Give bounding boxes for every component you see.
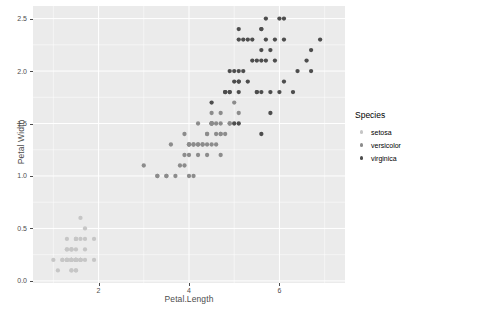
data-point	[255, 58, 259, 62]
series-virginica	[209, 16, 322, 136]
data-point	[219, 132, 223, 136]
y-tick-label: 0.5	[3, 225, 27, 232]
data-point	[282, 16, 286, 20]
data-point	[241, 69, 245, 73]
data-point	[209, 100, 213, 104]
data-point	[187, 174, 191, 178]
data-point	[191, 142, 195, 146]
data-point	[232, 121, 236, 125]
data-point	[155, 174, 159, 178]
data-point	[250, 37, 254, 41]
data-point	[273, 37, 277, 41]
data-point	[268, 48, 272, 52]
data-point	[318, 37, 322, 41]
data-point	[237, 121, 241, 125]
data-point	[65, 247, 69, 251]
data-point	[214, 132, 218, 136]
data-point	[295, 69, 299, 73]
data-point	[60, 258, 64, 262]
data-point	[259, 90, 263, 94]
scatter-plot-figure: 0.00.51.01.52.02.5 246 Petal.Length Peta…	[0, 0, 478, 311]
data-point	[205, 132, 209, 136]
data-point	[246, 37, 250, 41]
data-point	[78, 237, 82, 241]
data-point	[268, 111, 272, 115]
data-point	[74, 258, 78, 262]
data-point	[219, 121, 223, 125]
y-axis-title: Petal Width	[16, 92, 26, 192]
x-tick-label: 4	[179, 287, 199, 294]
legend-key-swatch	[355, 152, 368, 165]
data-point	[69, 268, 73, 272]
data-point	[69, 247, 73, 251]
data-point	[241, 37, 245, 41]
data-point	[232, 100, 236, 104]
data-point	[237, 90, 241, 94]
data-point	[209, 142, 213, 146]
legend-item-label: virginica	[371, 155, 397, 162]
plot-panel	[33, 6, 345, 283]
y-tick-mark	[30, 124, 33, 125]
data-point	[309, 48, 313, 52]
x-tick-label: 6	[269, 287, 289, 294]
data-point	[223, 132, 227, 136]
x-tick-mark	[279, 283, 280, 286]
legend-item-setosa[interactable]: setosa	[355, 126, 473, 139]
data-point	[205, 153, 209, 157]
data-point	[56, 268, 60, 272]
data-point	[187, 142, 191, 146]
data-point	[74, 268, 78, 272]
data-point	[277, 16, 281, 20]
data-point	[196, 153, 200, 157]
data-point	[268, 90, 272, 94]
data-point	[232, 69, 236, 73]
legend-key-swatch	[355, 139, 368, 152]
data-point	[214, 142, 218, 146]
data-point	[83, 258, 87, 262]
data-point	[182, 163, 186, 167]
x-axis-title: Petal.Length	[33, 294, 345, 304]
y-tick-label: 2.5	[3, 15, 27, 22]
data-point	[191, 174, 195, 178]
y-tick-mark	[30, 71, 33, 72]
legend-dot-icon	[360, 156, 363, 159]
data-point	[205, 142, 209, 146]
data-point	[164, 174, 168, 178]
legend-items: setosaversicolorvirginica	[355, 126, 473, 165]
data-point	[232, 79, 236, 83]
data-point	[182, 153, 186, 157]
data-point	[237, 37, 241, 41]
x-tick-label: 2	[89, 287, 109, 294]
data-point	[51, 258, 55, 262]
legend-item-versicolor[interactable]: versicolor	[355, 139, 473, 152]
data-point	[92, 258, 96, 262]
legend-title: Species	[355, 111, 473, 120]
data-point	[92, 237, 96, 241]
data-point	[277, 90, 281, 94]
data-point	[69, 258, 73, 262]
data-point	[65, 258, 69, 262]
legend-item-virginica[interactable]: virginica	[355, 152, 473, 165]
y-tick-mark	[30, 228, 33, 229]
x-tick-mark	[189, 283, 190, 286]
data-point	[65, 237, 69, 241]
data-point	[246, 79, 250, 83]
data-point	[78, 258, 82, 262]
legend-dot-icon	[360, 130, 363, 133]
series-versicolor	[142, 90, 241, 178]
data-point	[209, 111, 213, 115]
data-point	[282, 79, 286, 83]
data-point	[264, 58, 268, 62]
data-point	[196, 142, 200, 146]
data-point	[178, 163, 182, 167]
data-point	[78, 216, 82, 220]
y-tick-mark	[30, 19, 33, 20]
series-setosa	[51, 216, 96, 273]
data-point	[237, 27, 241, 31]
data-point	[182, 132, 186, 136]
data-point	[142, 163, 146, 167]
data-point	[83, 226, 87, 230]
data-point	[282, 37, 286, 41]
data-point	[259, 27, 263, 31]
data-point	[309, 69, 313, 73]
